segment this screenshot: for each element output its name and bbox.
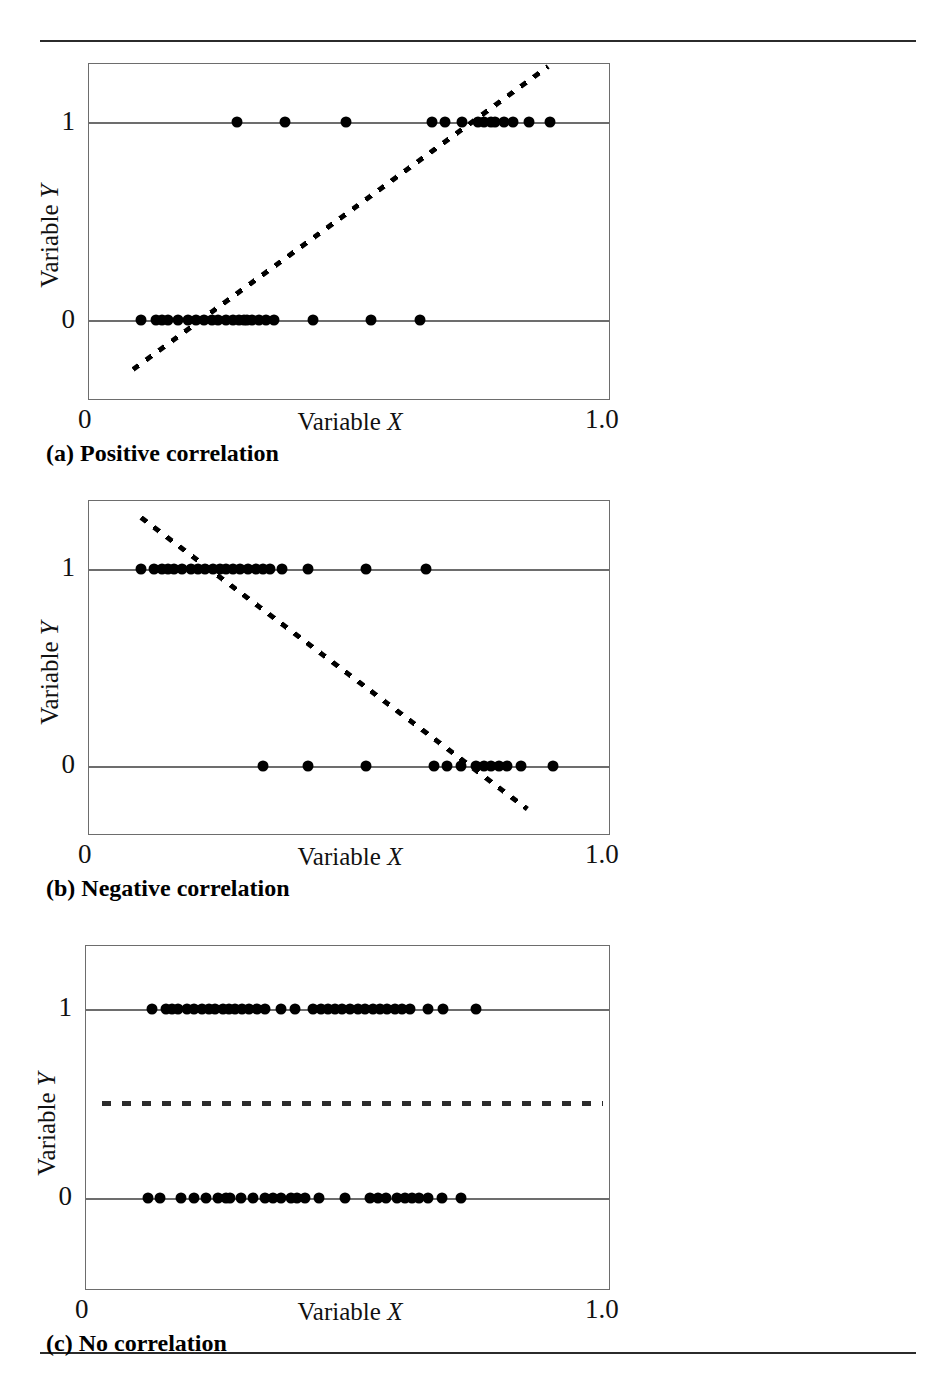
regression-line	[102, 1101, 603, 1106]
panel-b-x-axis-title: Variable X	[0, 843, 700, 871]
data-point	[547, 761, 558, 772]
data-point	[441, 761, 452, 772]
data-point	[279, 117, 290, 128]
panel-a-x-axis-title: Variable X	[0, 408, 700, 436]
data-point	[524, 117, 535, 128]
x-axis-title-prefix: Variable	[298, 843, 388, 870]
data-point	[303, 761, 314, 772]
data-point	[303, 564, 314, 575]
data-point	[231, 117, 242, 128]
y-axis-title-prefix: Variable	[36, 635, 63, 725]
data-point	[142, 1193, 153, 1204]
panel-b-ytick-0: 0	[62, 751, 89, 778]
y-axis-title-prefix: Variable	[33, 1086, 60, 1176]
data-point	[277, 564, 288, 575]
data-point	[516, 761, 527, 772]
figure-page: Variable Y 1 0 0 1.0 Variable X (a) Posi…	[0, 0, 947, 1380]
data-point	[172, 315, 183, 326]
data-point	[269, 315, 280, 326]
data-point	[436, 1193, 447, 1204]
panel-a-y-axis-title: Variable Y	[36, 156, 64, 316]
data-point	[438, 1004, 449, 1015]
data-point	[456, 1193, 467, 1204]
data-point	[415, 315, 426, 326]
panel-a-ytick-0: 0	[62, 306, 89, 333]
data-point	[423, 1193, 434, 1204]
panel-a-plot-area	[88, 63, 610, 400]
data-point	[420, 564, 431, 575]
data-point	[339, 1193, 350, 1204]
x-axis-title-prefix: Variable	[298, 408, 388, 435]
data-point	[225, 1193, 236, 1204]
data-point	[426, 117, 437, 128]
data-point	[265, 564, 276, 575]
data-point	[147, 1004, 158, 1015]
panel-b: Variable Y 1 0 0 1.0 Variable X (b) Nega…	[0, 437, 947, 907]
data-point	[175, 1193, 186, 1204]
data-point	[247, 1193, 258, 1204]
x-axis-title-prefix: Variable	[298, 1298, 388, 1325]
panel-c-ytick-1: 1	[59, 994, 86, 1021]
data-point	[257, 761, 268, 772]
data-point	[507, 117, 518, 128]
data-point	[300, 1193, 311, 1204]
y-axis-title-prefix: Variable	[36, 198, 63, 288]
panel-c-caption-tag: (c)	[46, 1330, 73, 1356]
data-point	[308, 315, 319, 326]
data-point	[544, 117, 555, 128]
data-point	[428, 761, 439, 772]
panel-c-x-axis-title: Variable X	[0, 1298, 700, 1326]
data-point	[236, 1193, 247, 1204]
panel-a: Variable Y 1 0 0 1.0 Variable X (a) Posi…	[0, 0, 947, 470]
data-point	[440, 117, 451, 128]
data-point	[276, 1004, 287, 1015]
panel-a-ytick-1: 1	[62, 108, 89, 135]
panel-c-caption: (c) No correlation	[46, 1330, 227, 1357]
data-point	[423, 1004, 434, 1015]
x-axis-title-var: X	[387, 843, 402, 870]
x-axis-title-var: X	[387, 1298, 402, 1325]
data-point	[259, 1004, 270, 1015]
x-axis-title-var: X	[387, 408, 402, 435]
data-point	[360, 761, 371, 772]
data-point	[289, 1004, 300, 1015]
panel-b-y-axis-title: Variable Y	[36, 593, 64, 753]
data-point	[200, 1193, 211, 1204]
data-point	[360, 564, 371, 575]
y-axis-title-var: Y	[36, 184, 63, 198]
data-point	[136, 564, 147, 575]
panel-c: Variable Y 1 0 0 1.0 Variable X (c) No c…	[0, 882, 947, 1362]
data-point	[136, 315, 147, 326]
data-point	[381, 1193, 392, 1204]
data-point	[314, 1193, 325, 1204]
data-point	[501, 761, 512, 772]
panel-c-ytick-0: 0	[59, 1183, 86, 1210]
data-point	[404, 1004, 415, 1015]
panel-c-plot-area	[85, 945, 610, 1290]
data-point	[341, 117, 352, 128]
panel-b-gridline-y0	[89, 766, 609, 768]
data-point	[470, 1004, 481, 1015]
panel-c-caption-text: No correlation	[79, 1330, 227, 1356]
data-point	[188, 1193, 199, 1204]
panel-b-ytick-1: 1	[62, 554, 89, 581]
y-axis-title-var: Y	[33, 1072, 60, 1086]
panel-b-plot-area	[88, 500, 610, 835]
regression-line	[132, 65, 550, 372]
y-axis-title-var: Y	[36, 621, 63, 635]
data-point	[154, 1193, 165, 1204]
panel-c-y-axis-title: Variable Y	[33, 1044, 61, 1204]
data-point	[365, 315, 376, 326]
